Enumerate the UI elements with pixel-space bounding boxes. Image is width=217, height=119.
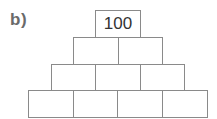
pyramid-brick-r4-c1[interactable]	[28, 90, 74, 118]
pyramid-brick-r2-c2[interactable]	[118, 37, 163, 65]
pyramid-brick-r4-c3[interactable]	[117, 90, 163, 118]
exercise-label: b)	[10, 10, 27, 30]
pyramid-brick-r3-c2[interactable]	[95, 64, 141, 91]
pyramid-brick-r1-c1: 100	[95, 10, 141, 38]
pyramid-brick-r3-c1[interactable]	[51, 64, 96, 91]
pyramid-brick-r3-c3[interactable]	[140, 64, 185, 91]
pyramid-brick-r2-c1[interactable]	[73, 37, 119, 65]
pyramid-brick-r4-c4[interactable]	[162, 90, 208, 118]
brick-value: 100	[104, 14, 132, 34]
pyramid-brick-r4-c2[interactable]	[73, 90, 118, 118]
